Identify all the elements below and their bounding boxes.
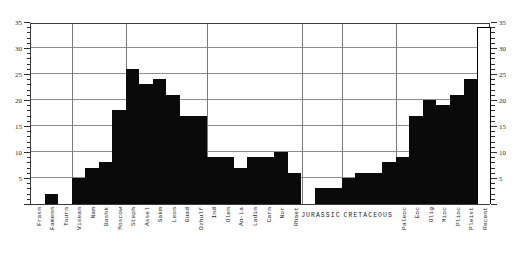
y-tick <box>27 43 31 44</box>
bar <box>464 79 478 204</box>
x-tick-label: Recent <box>483 207 489 230</box>
x-tick-label: Olen <box>226 207 232 222</box>
x-tick-cell: Carn <box>260 206 274 255</box>
y-tick <box>491 162 495 163</box>
y-tick <box>24 126 30 127</box>
bar <box>328 188 342 204</box>
x-tick-label: Famenn <box>50 207 56 230</box>
y-tick <box>491 194 495 195</box>
y-axis-label: 35 <box>499 20 506 27</box>
y-tick <box>24 204 30 205</box>
y-tick <box>491 22 497 23</box>
y-tick <box>27 32 31 33</box>
y-tick <box>491 27 495 28</box>
bar <box>274 152 288 204</box>
y-tick <box>27 90 31 91</box>
y-tick <box>27 69 31 70</box>
y-tick <box>491 105 495 106</box>
y-tick <box>491 95 495 96</box>
bar <box>261 157 275 204</box>
bar <box>220 157 234 204</box>
bar <box>450 95 464 204</box>
x-tick-label: Ind <box>212 207 218 218</box>
bar <box>355 173 369 204</box>
y-tick <box>491 147 495 148</box>
y-tick <box>27 95 31 96</box>
y-tick <box>491 38 495 39</box>
y-tick <box>27 79 31 80</box>
y-tick <box>27 116 31 117</box>
x-tick-label: Olig <box>429 207 435 222</box>
y-tick <box>491 204 497 205</box>
x-tick-cell: Bashk <box>98 206 112 255</box>
bar <box>342 178 356 204</box>
x-tick-label: Sakm <box>158 207 164 222</box>
bar <box>288 173 302 204</box>
y-axis-label: 25 <box>499 72 506 79</box>
y-tick <box>27 84 31 85</box>
x-tick-label: An-La <box>239 207 245 226</box>
x-tick-cell: Tourn <box>57 206 71 255</box>
y-axis-label: 15 <box>499 124 506 131</box>
period-label: CRETACEOUS <box>341 212 395 219</box>
histogram-chart: 5101520253035 5101520253035 FrasnFamennT… <box>0 0 525 255</box>
y-tick <box>491 79 495 80</box>
bar <box>234 168 248 204</box>
x-tick-cell: Recent <box>476 206 490 255</box>
y-tick <box>491 110 495 111</box>
x-tick-cell: Olig <box>422 206 436 255</box>
bar <box>85 168 99 204</box>
y-tick <box>27 27 31 28</box>
x-tick-cell: Visean <box>71 206 85 255</box>
y-tick <box>491 121 495 122</box>
period-label: JURASSIC <box>301 212 342 219</box>
y-tick <box>27 110 31 111</box>
y-tick <box>491 188 495 189</box>
bar <box>396 157 410 204</box>
y-axis-label: 35 <box>15 20 22 27</box>
bar <box>180 116 194 204</box>
y-tick <box>24 178 30 179</box>
x-tick-label: Plioc <box>456 207 462 226</box>
x-tick-cell: Dzhulf <box>192 206 206 255</box>
y-tick <box>24 22 30 23</box>
y-tick <box>27 188 31 189</box>
x-tick-cell: An-La <box>233 206 247 255</box>
y-tick <box>491 100 497 101</box>
x-tick-cell: Guad <box>179 206 193 255</box>
y-tick <box>491 58 495 59</box>
x-tick-cell: Frasn <box>30 206 44 255</box>
x-tick-cell: Pleist <box>463 206 477 255</box>
x-tick-cell: Ind <box>206 206 220 255</box>
bar <box>315 188 329 204</box>
y-tick <box>27 147 31 148</box>
y-tick <box>491 32 495 33</box>
y-tick <box>27 142 31 143</box>
y-tick <box>491 152 497 153</box>
x-tick-label: Carn <box>267 207 273 222</box>
y-tick <box>27 199 31 200</box>
x-tick-label: Leon <box>172 207 178 222</box>
x-tick-label: Nor <box>280 207 286 218</box>
y-tick <box>24 152 30 153</box>
y-tick <box>27 173 31 174</box>
y-axis-label: 25 <box>15 72 22 79</box>
y-tick <box>491 90 495 91</box>
x-tick-cell: Famenn <box>44 206 58 255</box>
y-tick <box>491 173 495 174</box>
y-tick <box>491 136 495 137</box>
x-tick-cell: Moscow <box>111 206 125 255</box>
y-tick <box>24 74 30 75</box>
bar <box>126 69 140 204</box>
x-tick-cell: Sakm <box>152 206 166 255</box>
y-tick <box>491 142 495 143</box>
y-tick <box>491 64 495 65</box>
y-tick <box>491 84 495 85</box>
y-tick <box>491 126 497 127</box>
x-tick-label: Nam <box>91 207 97 218</box>
bar <box>423 100 437 204</box>
y-axis-label: 5 <box>499 176 503 183</box>
y-tick <box>491 157 495 158</box>
y-tick <box>27 64 31 65</box>
y-tick <box>491 183 495 184</box>
